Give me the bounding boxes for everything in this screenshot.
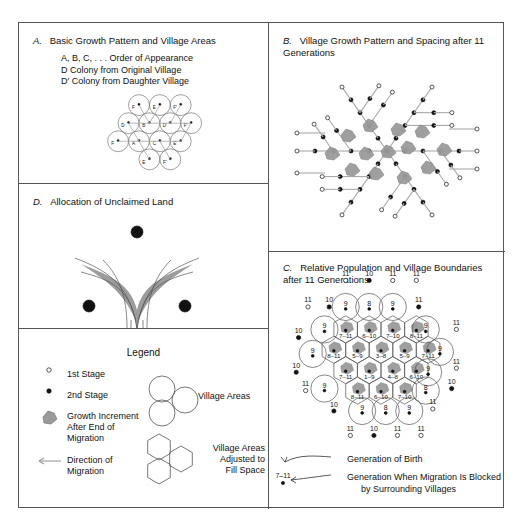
caption-generation-blocked: Generation When Migration Is Blocked	[347, 472, 501, 484]
svg-text:9: 9	[407, 404, 411, 411]
svg-text:11: 11	[453, 319, 460, 326]
panel-b-diagram	[269, 23, 505, 251]
legend-label-village-areas-adjusted: Village Areas Adjusted to Fill Space	[193, 443, 265, 476]
svg-text:F′: F′	[184, 123, 188, 128]
svg-text:11: 11	[394, 425, 401, 432]
caption-blocked-line2: by Surrounding Villages	[361, 484, 456, 496]
legend-icons	[19, 329, 268, 509]
svg-text:7–11: 7–11	[339, 373, 353, 380]
panel-d-diagram	[19, 184, 268, 328]
svg-text:9: 9	[344, 300, 348, 307]
svg-text:C: C	[153, 141, 157, 146]
svg-text:8–11: 8–11	[351, 393, 365, 400]
svg-text:F′: F′	[173, 105, 177, 110]
svg-text:7–11: 7–11	[339, 332, 353, 339]
svg-text:1–9: 1–9	[364, 373, 375, 380]
svg-text:F: F	[111, 141, 114, 146]
svg-text:11: 11	[347, 425, 354, 432]
figure-frame: A. Basic Growth Pattern and Village Area…	[18, 22, 504, 508]
legend-label-growth-increment: Growth Increment After End of Migration	[67, 411, 139, 444]
svg-text:8: 8	[384, 404, 388, 411]
svg-text:11: 11	[417, 425, 424, 432]
svg-text:6–10: 6–10	[362, 332, 376, 339]
svg-text:10: 10	[365, 270, 373, 277]
svg-text:10: 10	[448, 378, 456, 385]
svg-text:E: E	[142, 160, 145, 165]
svg-text:8–11: 8–11	[410, 332, 424, 339]
svg-text:9: 9	[323, 322, 327, 329]
legend-label-2nd-stage: 2nd Stage	[67, 390, 108, 401]
svg-text:9: 9	[426, 365, 430, 372]
svg-text:9: 9	[438, 345, 442, 352]
svg-text:11: 11	[453, 358, 460, 365]
svg-text:9: 9	[360, 404, 364, 411]
svg-text:6–10: 6–10	[409, 373, 423, 380]
panel-a: A. Basic Growth Pattern and Village Area…	[19, 23, 268, 183]
svg-text:7–11: 7–11	[421, 352, 435, 359]
svg-text:7–10: 7–10	[398, 393, 412, 400]
svg-text:5–9: 5–9	[399, 352, 410, 359]
svg-text:11: 11	[304, 296, 311, 303]
svg-text:11: 11	[302, 380, 309, 387]
svg-text:7–11: 7–11	[275, 472, 290, 479]
svg-text:11: 11	[413, 270, 420, 277]
svg-text:9: 9	[311, 347, 315, 354]
panel-d: D. Allocation of Unclaimed Land	[19, 184, 268, 328]
panel-a-diagram: FEF′DBD′F′FACE′EF′	[19, 23, 268, 183]
panel-c-diagram: 7–116–107–108–118–115–93–85–97–117–111–9…	[269, 252, 505, 464]
svg-text:8: 8	[367, 300, 371, 307]
svg-text:F′: F′	[163, 160, 167, 165]
svg-text:E: E	[153, 105, 156, 110]
legend-label-1st-stage: 1st Stage	[67, 369, 105, 380]
svg-text:11: 11	[429, 398, 436, 405]
svg-text:6–10: 6–10	[374, 393, 388, 400]
svg-text:10: 10	[292, 362, 300, 369]
svg-text:B: B	[142, 123, 145, 128]
svg-text:3–8: 3–8	[376, 352, 387, 359]
svg-text:5–9: 5–9	[352, 352, 363, 359]
caption-generation-of-birth: Generation of Birth	[347, 454, 423, 466]
svg-text:10: 10	[370, 425, 378, 432]
svg-text:9: 9	[424, 322, 428, 329]
svg-text:8–11: 8–11	[327, 352, 341, 359]
svg-text:11: 11	[415, 296, 422, 303]
svg-text:D: D	[121, 123, 125, 128]
svg-text:4–8: 4–8	[388, 373, 399, 380]
svg-text:11: 11	[389, 270, 396, 277]
svg-text:F: F	[132, 105, 135, 110]
svg-text:10: 10	[325, 296, 333, 303]
svg-text:E′: E′	[173, 141, 177, 146]
legend-label-village-areas: Village Areas	[198, 391, 250, 402]
svg-text:8: 8	[424, 384, 428, 391]
svg-text:11: 11	[342, 270, 349, 277]
svg-text:9: 9	[391, 300, 395, 307]
svg-text:D′: D′	[163, 123, 167, 128]
svg-text:9: 9	[323, 382, 327, 389]
panel-b: B. Village Growth Pattern and Spacing af…	[269, 23, 505, 251]
panel-c: C. Relative Population and Village Bound…	[269, 252, 505, 509]
svg-text:10: 10	[295, 327, 303, 334]
svg-text:10: 10	[330, 401, 338, 408]
svg-text:7–10: 7–10	[386, 332, 400, 339]
svg-text:A: A	[132, 141, 135, 146]
legend-label-direction-migration: Direction of Migration	[67, 455, 113, 477]
legend-panel: Legend 1st Stage 2nd Stage Growth Increm…	[19, 329, 268, 509]
